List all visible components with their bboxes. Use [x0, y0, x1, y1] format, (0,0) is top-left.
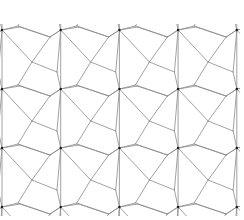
- tiling-node: [177, 206, 179, 208]
- tiling-node: [118, 29, 120, 31]
- tiling-node: [118, 88, 120, 90]
- tiling-node: [177, 29, 179, 31]
- tiling-node: [60, 29, 62, 31]
- tiling-node: [60, 206, 62, 208]
- tiling-edges: [0, 0, 244, 220]
- tiling-node: [118, 206, 120, 208]
- tiling-node: [60, 147, 62, 149]
- tiling-node: [118, 147, 120, 149]
- tiling-node: [177, 147, 179, 149]
- tiling-node: [236, 88, 238, 90]
- tiling-node: [236, 206, 238, 208]
- tiling-node: [236, 29, 238, 31]
- tiling-diagram: [0, 0, 244, 220]
- tiling-node: [1, 29, 3, 31]
- tiling-node: [236, 147, 238, 149]
- tiling-node: [1, 206, 3, 208]
- tiling-node: [1, 88, 3, 90]
- tiling-node: [60, 88, 62, 90]
- tiling-node: [1, 147, 3, 149]
- tiling-edge-path: [0, 0, 244, 220]
- tiling-node: [177, 88, 179, 90]
